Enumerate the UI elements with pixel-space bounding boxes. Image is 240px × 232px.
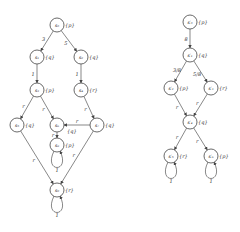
state-node: s′₆{p} bbox=[204, 149, 229, 163]
state-node: s₉{r} bbox=[50, 183, 74, 197]
edge-label: 1 bbox=[55, 167, 58, 173]
transition-edge bbox=[21, 131, 54, 184]
state-proposition: {p} bbox=[219, 153, 229, 160]
self-loop-edge bbox=[51, 196, 62, 213]
transition-systems-diagram: 3511rrrrrrr1183/85/8rrrr11 s₀{p}s₁{q}s₂{… bbox=[0, 0, 240, 232]
self-loop-edge bbox=[51, 151, 62, 168]
edge-label: 8 bbox=[184, 36, 187, 42]
state-proposition: {r} bbox=[65, 187, 74, 193]
edge-label: r bbox=[42, 106, 45, 112]
state-node: s′₁{q} bbox=[183, 48, 208, 62]
edge-label: r bbox=[32, 157, 35, 163]
edge-label: r bbox=[22, 103, 25, 109]
state-node: s′₃{r} bbox=[204, 81, 228, 95]
state-proposition: {r} bbox=[89, 87, 98, 93]
extra-label: {q} bbox=[67, 128, 77, 135]
state-node: s₄{r} bbox=[74, 83, 98, 97]
state-label: s′₀ bbox=[187, 20, 192, 25]
state-label: s₉ bbox=[55, 188, 59, 193]
state-label: s′₅ bbox=[168, 154, 173, 159]
edge-label: 5/8 bbox=[193, 71, 201, 77]
state-node: s₆ bbox=[50, 118, 64, 132]
state-node: s₈{p} bbox=[50, 138, 75, 152]
state-proposition: {q} bbox=[105, 122, 115, 129]
edge-label: 1 bbox=[31, 71, 34, 77]
state-label: s₅ bbox=[15, 123, 19, 128]
edge-label: 3/8 bbox=[173, 67, 181, 73]
state-proposition: {q} bbox=[198, 119, 208, 126]
edge-label: 1 bbox=[169, 178, 172, 184]
state-label: s₃ bbox=[35, 88, 39, 93]
state-label: s₁ bbox=[35, 55, 39, 60]
state-label: s₆ bbox=[55, 123, 59, 128]
edge-label: r bbox=[176, 104, 179, 110]
state-node: s′₄{q} bbox=[183, 115, 208, 129]
state-label: s₀ bbox=[55, 23, 59, 28]
state-proposition: {q} bbox=[89, 54, 99, 61]
state-label: s′₆ bbox=[208, 154, 213, 159]
state-proposition: {p} bbox=[65, 22, 75, 29]
state-proposition: {q} bbox=[198, 52, 208, 59]
edge-label: r bbox=[196, 100, 199, 106]
edge-label: r bbox=[84, 106, 87, 112]
state-node: s′₂{p} bbox=[164, 81, 189, 95]
self-loop-edge bbox=[165, 162, 176, 179]
state-node: s₃{p} bbox=[30, 83, 55, 97]
state-proposition: {p} bbox=[198, 19, 208, 26]
state-label: s′₁ bbox=[187, 53, 192, 58]
state-label: s′₂ bbox=[168, 86, 173, 91]
state-node: s₂{q} bbox=[74, 50, 99, 64]
edge-label: 5 bbox=[64, 40, 67, 46]
edge-label: r bbox=[76, 118, 79, 124]
state-node: s₀{p} bbox=[50, 18, 75, 32]
state-label: s′₃ bbox=[208, 86, 213, 91]
edge-label: r bbox=[72, 152, 75, 158]
edge-label: r bbox=[176, 134, 179, 140]
state-node: s₇{q} bbox=[90, 118, 115, 132]
self-loop-edge bbox=[205, 162, 216, 179]
state-node: s′₀{p} bbox=[183, 15, 208, 29]
state-proposition: {q} bbox=[45, 54, 55, 61]
state-label: s₇ bbox=[95, 123, 99, 128]
edge-label: 3 bbox=[42, 36, 45, 42]
state-proposition: {p} bbox=[65, 142, 75, 149]
edge-label: 1 bbox=[75, 71, 78, 77]
state-label: s₈ bbox=[55, 143, 59, 148]
state-label: s′₄ bbox=[187, 120, 192, 125]
edge-label: 1 bbox=[209, 178, 212, 184]
transition-edge bbox=[61, 131, 94, 184]
state-proposition: {q} bbox=[25, 122, 35, 129]
state-label: s₂ bbox=[79, 55, 83, 60]
state-node: s′₅{r} bbox=[164, 149, 188, 163]
state-label: s₄ bbox=[79, 88, 83, 93]
state-proposition: {r} bbox=[219, 85, 228, 91]
state-proposition: {p} bbox=[45, 87, 55, 94]
edge-label: 1 bbox=[55, 212, 58, 218]
edge-label: r bbox=[196, 138, 199, 144]
state-node: s₅{q} bbox=[10, 118, 35, 132]
edge-label: r bbox=[52, 132, 55, 138]
state-proposition: {r} bbox=[179, 153, 188, 159]
state-proposition: {p} bbox=[179, 85, 189, 92]
state-node: s₁{q} bbox=[30, 50, 55, 64]
